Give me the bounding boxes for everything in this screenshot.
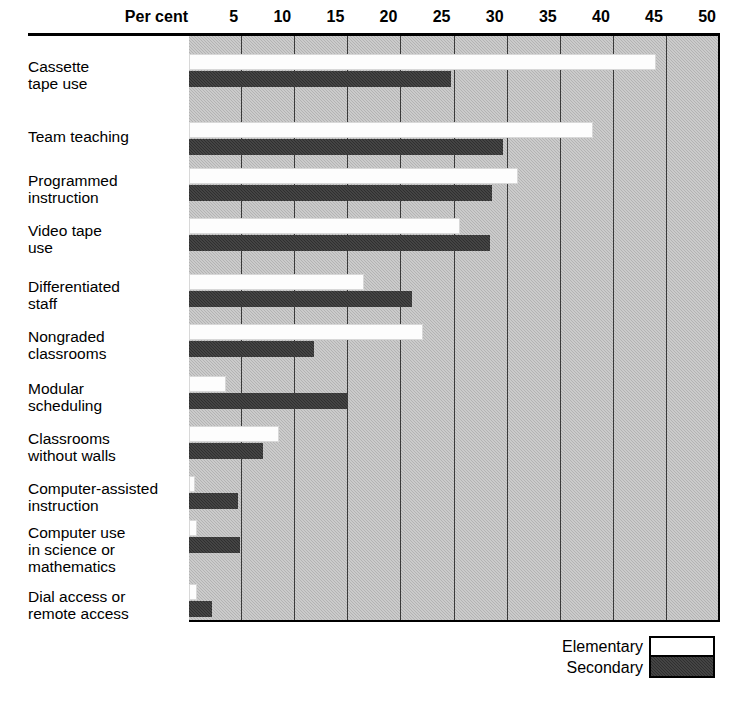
category-label: Dial access orremote access	[28, 588, 183, 622]
category-label-line: Classrooms	[28, 430, 183, 447]
category-label: Differentiatedstaff	[28, 278, 183, 312]
bar-secondary	[189, 235, 490, 251]
category-label: Computer usein science ormathematics	[28, 524, 183, 575]
category-label-line: tape use	[28, 75, 183, 92]
category-label-line: Dial access or	[28, 588, 183, 605]
legend-swatch-elementary	[649, 636, 715, 657]
category-label: Cassettetape use	[28, 58, 183, 92]
x-axis-tick-5: 5	[202, 8, 238, 26]
category-label: Classroomswithout walls	[28, 430, 183, 464]
category-label-line: scheduling	[28, 397, 183, 414]
category-label-line: classrooms	[28, 345, 183, 362]
category-label: Video tapeuse	[28, 222, 183, 256]
x-axis-tick-30: 30	[468, 8, 504, 26]
category-label-line: Nongraded	[28, 328, 183, 345]
category-label-line: instruction	[28, 189, 183, 206]
x-axis-tick-35: 35	[521, 8, 557, 26]
bar-secondary	[189, 537, 240, 553]
category-label-line: Programmed	[28, 172, 183, 189]
x-axis-tick-40: 40	[574, 8, 610, 26]
category-label: Programmedinstruction	[28, 172, 183, 206]
category-label-line: Computer-assisted	[28, 480, 183, 497]
bar-elementary	[189, 520, 197, 536]
category-label: Team teaching	[28, 128, 183, 145]
category-label: Nongradedclassrooms	[28, 328, 183, 362]
category-label-line: staff	[28, 295, 183, 312]
category-label-line: in science or	[28, 541, 183, 558]
legend-swatch-secondary	[649, 657, 715, 678]
bar-secondary	[189, 601, 212, 617]
bar-elementary	[189, 168, 518, 184]
category-label-line: remote access	[28, 605, 183, 622]
x-axis-tick-25: 25	[415, 8, 451, 26]
x-axis-tick-50: 50	[680, 8, 716, 26]
category-label-line: Video tape	[28, 222, 183, 239]
category-label-line: Cassette	[28, 58, 183, 75]
bar-secondary	[189, 291, 412, 307]
bar-rows: Cassettetape useTeam teachingProgrammedi…	[0, 36, 733, 622]
bar-elementary	[189, 584, 197, 600]
bar-secondary	[189, 341, 314, 357]
bar-elementary	[189, 122, 593, 138]
category-label-line: use	[28, 239, 183, 256]
category-label-line: mathematics	[28, 558, 183, 575]
bar-elementary	[189, 218, 460, 234]
x-axis-tick-20: 20	[361, 8, 397, 26]
x-axis-title: Per cent	[110, 8, 188, 26]
x-axis-tick-45: 45	[627, 8, 663, 26]
bar-secondary	[189, 139, 503, 155]
category-label: Computer-assistedinstruction	[28, 480, 183, 514]
legend-label-secondary: Secondary	[567, 657, 644, 678]
category-label: Modularscheduling	[28, 380, 183, 414]
bar-elementary	[189, 376, 226, 392]
x-axis-tick-15: 15	[308, 8, 344, 26]
category-label-line: instruction	[28, 497, 183, 514]
bar-secondary	[189, 443, 263, 459]
chart-figure: Per cent 5101520253035404550 Cassettetap…	[0, 0, 733, 706]
category-label-line: Computer use	[28, 524, 183, 541]
category-label-line: Team teaching	[28, 128, 183, 145]
bar-elementary	[189, 426, 279, 442]
category-label-line: Differentiated	[28, 278, 183, 295]
x-axis-tick-10: 10	[255, 8, 291, 26]
chart-legend: Elementary Secondary	[0, 636, 733, 696]
bar-secondary	[189, 185, 492, 201]
x-axis-tick-labels: Per cent 5101520253035404550	[0, 8, 733, 30]
legend-label-elementary: Elementary	[562, 636, 643, 657]
bar-elementary	[189, 476, 195, 492]
bar-secondary	[189, 71, 451, 87]
category-label-line: Modular	[28, 380, 183, 397]
bar-elementary	[189, 274, 364, 290]
bar-elementary	[189, 324, 423, 340]
bar-elementary	[189, 54, 656, 70]
bar-secondary	[189, 493, 238, 509]
bar-secondary	[189, 393, 348, 409]
category-label-line: without walls	[28, 447, 183, 464]
